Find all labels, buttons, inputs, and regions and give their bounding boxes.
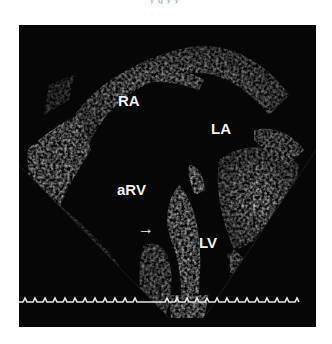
label-atrialized-right-ventricle: aRV bbox=[117, 182, 146, 197]
ultrasound-sector bbox=[19, 25, 316, 327]
arrow-indicator: → bbox=[138, 221, 154, 237]
caption-fragment: y g y y bbox=[150, 0, 330, 4]
label-left-atrium: LA bbox=[211, 121, 231, 136]
label-left-ventricle: LV bbox=[199, 235, 217, 250]
label-right-atrium: RA bbox=[118, 93, 140, 108]
echocardiogram-image: RA LA aRV LV → bbox=[19, 25, 316, 327]
